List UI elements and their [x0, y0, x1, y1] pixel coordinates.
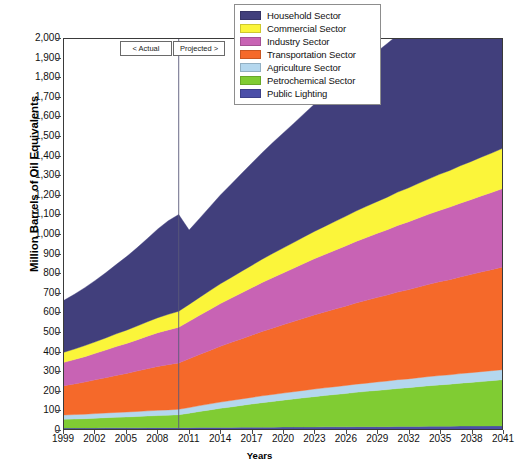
y-axis-tick-label: 800 — [16, 267, 60, 278]
y-axis-tick-label: 200 — [16, 385, 60, 396]
y-axis-tick-mark — [56, 77, 61, 78]
legend-item: Petrochemical Sector — [240, 74, 375, 87]
x-axis-tick-label: 2020 — [272, 433, 294, 444]
y-axis-tick-mark — [56, 156, 61, 157]
legend-swatch-icon — [240, 24, 261, 33]
y-axis-tick-mark — [56, 195, 61, 196]
y-axis-tick-label: 1,500 — [16, 130, 60, 141]
y-axis-tick-mark — [56, 352, 61, 353]
y-axis-tick-label: 1,600 — [16, 110, 60, 121]
x-axis-tick-label: 2008 — [146, 433, 168, 444]
y-axis-tick-label: 1,900 — [16, 52, 60, 63]
y-axis-tick-label: 1,400 — [16, 150, 60, 161]
y-axis-tick-labels: 01002003004005006007008009001,0001,1001,… — [8, 38, 60, 430]
projected-period-label: Projected > — [173, 41, 225, 56]
x-axis-tick-label: 2029 — [366, 433, 388, 444]
x-axis-tick-label: 2002 — [83, 433, 105, 444]
legend-swatch-icon — [240, 76, 261, 85]
legend-item-label: Transportation Sector — [267, 49, 356, 60]
legend-item: Commercial Sector — [240, 22, 375, 35]
legend-item: Agriculture Sector — [240, 61, 375, 74]
legend-swatch-icon — [240, 11, 261, 20]
y-axis-tick-mark — [56, 293, 61, 294]
x-axis-tick-label: 2017 — [240, 433, 262, 444]
y-axis-tick-mark — [56, 38, 61, 39]
y-axis-tick-mark — [56, 391, 61, 392]
y-axis-tick-mark — [56, 116, 61, 117]
x-axis-tick-label: 1999 — [52, 433, 74, 444]
y-axis-tick-label: 500 — [16, 326, 60, 337]
y-axis-tick-mark — [56, 97, 61, 98]
y-axis-tick-mark — [56, 234, 61, 235]
legend-item-label: Household Sector — [267, 10, 341, 21]
x-axis-tick-label: 2011 — [178, 433, 200, 444]
y-axis-tick-label: 400 — [16, 346, 60, 357]
legend-item-label: Petrochemical Sector — [267, 75, 355, 86]
x-axis-tick-labels: 1999200220052008201120142017202020232026… — [63, 433, 509, 449]
y-axis-tick-label: 2,000 — [16, 32, 60, 43]
x-axis-tick-label: 2014 — [209, 433, 231, 444]
legend-item-label: Public Lighting — [267, 88, 327, 99]
x-axis-tick-label: 2032 — [398, 433, 420, 444]
legend-swatch-icon — [240, 50, 261, 59]
x-axis-tick-label: 2035 — [429, 433, 451, 444]
legend-item-label: Agriculture Sector — [267, 62, 341, 73]
legend-item: Public Lighting — [240, 87, 375, 100]
y-axis-tick-label: 1,800 — [16, 71, 60, 82]
y-axis-tick-mark — [56, 430, 61, 431]
y-axis-tick-mark — [56, 371, 61, 372]
x-axis-title: Years — [0, 450, 519, 461]
y-axis-tick-label: 700 — [16, 287, 60, 298]
y-axis-tick-label: 100 — [16, 404, 60, 415]
legend-swatch-icon — [240, 63, 261, 72]
x-axis-tick-label: 2041 — [492, 433, 514, 444]
legend-item: Transportation Sector — [240, 48, 375, 61]
y-axis-tick-mark — [56, 175, 61, 176]
y-axis-tick-label: 600 — [16, 306, 60, 317]
y-axis-tick-mark — [56, 332, 61, 333]
legend-swatch-icon — [240, 37, 261, 46]
chart-figure: Million Barrels of Oil Equivalents 01002… — [0, 0, 519, 466]
y-axis-tick-mark — [56, 254, 61, 255]
chart-legend: Household SectorCommercial SectorIndustr… — [234, 4, 381, 105]
y-axis-tick-mark — [56, 136, 61, 137]
legend-item: Industry Sector — [240, 35, 375, 48]
legend-swatch-icon — [240, 89, 261, 98]
legend-item-label: Commercial Sector — [267, 23, 346, 34]
legend-item: Household Sector — [240, 9, 375, 22]
x-axis-tick-label: 2005 — [115, 433, 137, 444]
y-axis-tick-label: 900 — [16, 248, 60, 259]
y-axis-tick-label: 1,200 — [16, 189, 60, 200]
y-axis-tick-label: 300 — [16, 365, 60, 376]
actual-period-label: < Actual — [120, 41, 172, 56]
y-axis-tick-mark — [56, 58, 61, 59]
y-axis-tick-mark — [56, 312, 61, 313]
y-axis-tick-label: 1,100 — [16, 208, 60, 219]
y-axis-tick-mark — [56, 214, 61, 215]
x-axis-tick-label: 2038 — [460, 433, 482, 444]
legend-item-label: Industry Sector — [267, 36, 329, 47]
y-axis-tick-label: 1,700 — [16, 91, 60, 102]
x-axis-tick-label: 2023 — [303, 433, 325, 444]
y-axis-tick-label: 1,000 — [16, 228, 60, 239]
y-axis-tick-mark — [56, 273, 61, 274]
y-axis-tick-mark — [56, 410, 61, 411]
x-axis-tick-label: 2026 — [335, 433, 357, 444]
y-axis-tick-label: 1,300 — [16, 169, 60, 180]
